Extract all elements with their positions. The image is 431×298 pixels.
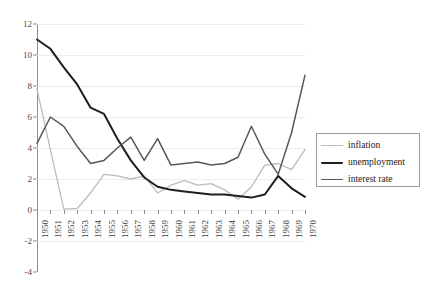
plot-area: 121086420-2-4 19501951195219531954195519… bbox=[37, 24, 305, 272]
legend-item-interest-rate: interest rate bbox=[321, 171, 415, 188]
chart-legend: inflation unemployment interest rate bbox=[316, 133, 420, 187]
legend-swatch-interest-rate bbox=[321, 179, 343, 181]
legend-label-inflation: inflation bbox=[348, 141, 380, 151]
x-tick-mark bbox=[305, 210, 306, 214]
y-tick-label: 12 bbox=[23, 20, 32, 29]
series-line-interest-rate bbox=[37, 75, 305, 174]
series-lines bbox=[37, 24, 305, 272]
chart-container: 121086420-2-4 19501951195219531954195519… bbox=[0, 0, 431, 298]
legend-item-inflation: inflation bbox=[321, 137, 415, 154]
series-line-inflation bbox=[37, 89, 305, 209]
legend-swatch-inflation bbox=[321, 145, 343, 146]
legend-label-interest-rate: interest rate bbox=[348, 175, 393, 185]
series-line-unemployment bbox=[37, 40, 305, 198]
legend-item-unemployment: unemployment bbox=[321, 154, 415, 171]
y-tick-label: -4 bbox=[25, 268, 33, 277]
y-tick-label: 4 bbox=[28, 144, 33, 153]
y-tick-label: 2 bbox=[28, 175, 33, 184]
y-tick-label: 6 bbox=[28, 113, 33, 122]
y-tick-label: 0 bbox=[28, 206, 33, 215]
legend-swatch-unemployment bbox=[321, 162, 343, 164]
y-tick-label: 8 bbox=[28, 82, 33, 91]
x-tick-label: 1970 bbox=[309, 220, 318, 238]
y-tick-label: -2 bbox=[25, 237, 33, 246]
legend-label-unemployment: unemployment bbox=[348, 158, 405, 168]
y-tick-label: 10 bbox=[23, 51, 32, 60]
